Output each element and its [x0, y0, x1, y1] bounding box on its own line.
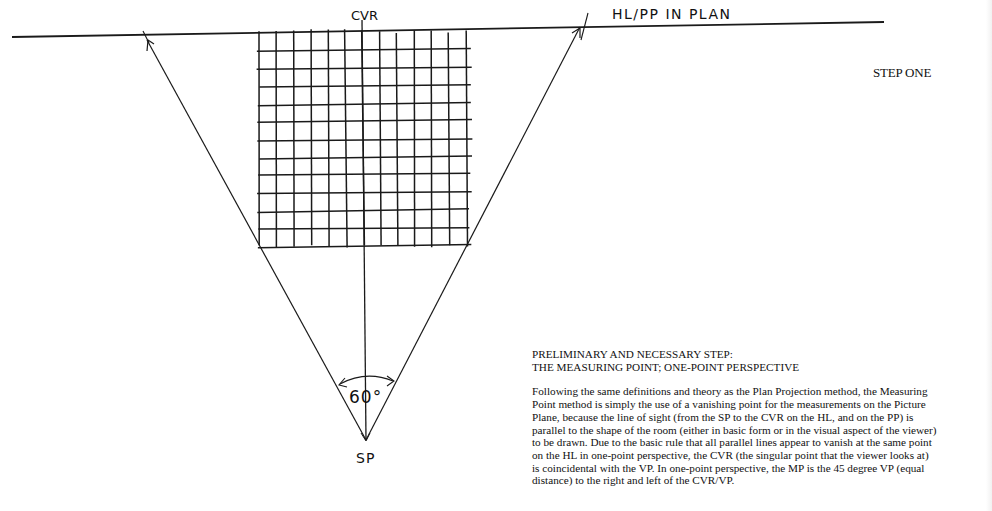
paragraph-line: on the HL in one-point perspective, the … [532, 449, 987, 462]
paragraph-line: is coincidental with the VP. In one-poin… [532, 462, 987, 475]
grid-horizontal-line [258, 173, 470, 175]
cvr-label: CVR [351, 8, 378, 23]
angle-arc [340, 376, 393, 384]
grid-vertical-line [345, 29, 348, 247]
paragraph-line: to be drawn. Due to the basic rule that … [532, 436, 987, 449]
explanation-text-block: PRELIMINARY AND NECESSARY STEP: THE MEAS… [532, 348, 992, 487]
grid-vertical-line [328, 30, 329, 246]
left-sight-line [147, 40, 366, 440]
grid-horizontal-line [257, 48, 471, 51]
paragraph-line: distance) to the right and left of the C… [532, 474, 987, 487]
angle-label: 60° [349, 387, 382, 407]
paragraph-line: parallel to the shape of the room (eithe… [532, 424, 987, 437]
step-title: STEP ONE [873, 65, 931, 81]
paragraph-line: Plane, because the line of sight (from t… [532, 411, 987, 424]
grid-horizontal-line [258, 102, 471, 105]
grid-vertical-line [380, 31, 382, 245]
hl-pp-label: HL/PP IN PLAN [612, 6, 732, 22]
page-edge-shadow [986, 0, 992, 511]
explanation-heading: PRELIMINARY AND NECESSARY STEP: THE MEAS… [532, 348, 992, 373]
grid-vertical-line [311, 29, 312, 245]
paragraph-line: Following the same definitions and theor… [532, 385, 987, 398]
grid-horizontal-line [259, 85, 470, 87]
heading-line-1: PRELIMINARY AND NECESSARY STEP: [532, 348, 992, 361]
heading-line-2: THE MEASURING POINT; ONE-POINT PERSPECTI… [532, 361, 992, 374]
grid-horizontal-line [257, 192, 472, 194]
grid-horizontal-line [257, 67, 472, 69]
explanation-paragraph: Following the same definitions and theor… [532, 385, 987, 487]
grid-horizontal-line [257, 209, 469, 213]
grid-horizontal-line [259, 156, 472, 159]
paragraph-line: Point method is simply the use of a vani… [532, 398, 987, 411]
sp-label: SP [356, 450, 375, 466]
grid-horizontal-line [257, 139, 472, 141]
grid-horizontal-line [257, 120, 472, 123]
